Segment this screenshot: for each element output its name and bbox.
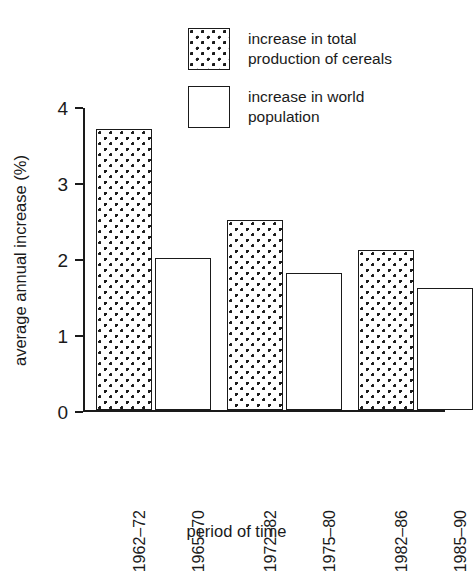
x-axis-line bbox=[83, 410, 445, 412]
legend-item-cereals: increase in total production of cereals bbox=[188, 28, 458, 70]
y-tick-label-0: 0 bbox=[57, 403, 68, 422]
y-tick-2: 2 bbox=[75, 259, 83, 261]
x-tick-label-1985–90: 1985–90 bbox=[452, 510, 470, 572]
x-tick-group: 1962–721965–701972–821975–801982–861985–… bbox=[85, 414, 447, 514]
bar-1965–70 bbox=[155, 258, 211, 410]
y-tick-4: 4 bbox=[75, 107, 83, 109]
y-axis-title-text: average annual increase (%) bbox=[11, 155, 30, 366]
bar-1985–90 bbox=[417, 288, 473, 410]
y-tick-label-1: 1 bbox=[57, 327, 68, 346]
x-tick-label-1962–72: 1962–72 bbox=[131, 510, 149, 572]
y-axis-title: average annual increase (%) bbox=[6, 108, 34, 412]
x-tick-label-1975–80: 1975–80 bbox=[321, 510, 339, 572]
bar-group bbox=[85, 108, 445, 410]
x-tick-label-1972–82: 1972–82 bbox=[262, 510, 280, 572]
bar-1975–80 bbox=[286, 273, 342, 410]
bar-1982–86 bbox=[358, 250, 414, 410]
x-axis-title: period of time bbox=[0, 522, 473, 541]
bar-1962–72 bbox=[96, 129, 152, 410]
y-tick-0: 0 bbox=[75, 411, 83, 413]
plot-area: 01234 bbox=[83, 108, 445, 412]
y-tick-label-2: 2 bbox=[57, 251, 68, 270]
x-tick-label-1982–86: 1982–86 bbox=[393, 510, 411, 572]
y-tick-3: 3 bbox=[75, 183, 83, 185]
legend-swatch-dotted-icon bbox=[188, 28, 230, 70]
x-tick-label-1965–70: 1965–70 bbox=[190, 510, 208, 572]
legend-label-cereals: increase in total production of cereals bbox=[248, 28, 392, 69]
y-tick-label-4: 4 bbox=[57, 99, 68, 118]
y-tick-1: 1 bbox=[75, 335, 83, 337]
bar-1972–82 bbox=[227, 220, 283, 410]
y-tick-label-3: 3 bbox=[57, 175, 68, 194]
